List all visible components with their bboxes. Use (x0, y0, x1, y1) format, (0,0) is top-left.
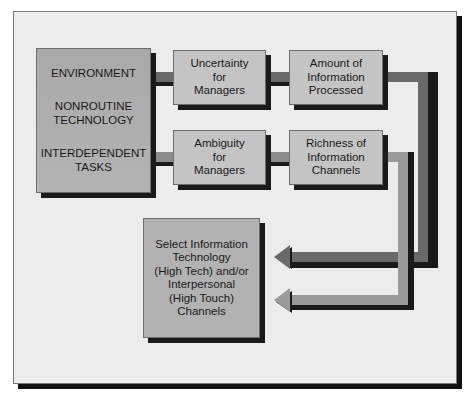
factor-label: TECHNOLOGY (53, 114, 134, 128)
box-label: Managers (194, 164, 245, 178)
box-label: (High Tech) and/or (154, 265, 248, 279)
box-label: Information (307, 71, 365, 85)
box-label: Uncertainty (190, 57, 248, 71)
factor-nonroutine-technology: NONROUTINE TECHNOLOGY (53, 100, 134, 127)
box-label: Richness of (306, 137, 366, 151)
factor-environment: ENVIRONMENT (51, 67, 136, 81)
box-label: for (213, 71, 226, 85)
select-channels-box: Select Information Technology (High Tech… (143, 218, 260, 338)
arrowhead-dark-icon (274, 245, 290, 269)
box-label: for (213, 151, 226, 165)
factor-interdependent-tasks: INTERDEPENDENT TASKS (41, 147, 146, 174)
box-label: Managers (194, 84, 245, 98)
arrowhead-light-icon (274, 288, 290, 312)
factor-label: INTERDEPENDENT (41, 147, 146, 161)
source-factors-box: ENVIRONMENT NONROUTINE TECHNOLOGY INTERD… (36, 48, 151, 193)
factor-label: ENVIRONMENT (51, 67, 136, 81)
box-label: Interpersonal (168, 278, 235, 292)
box-label: Information (307, 151, 365, 165)
factor-label: NONROUTINE (53, 100, 134, 114)
box-label: Ambiguity (194, 137, 245, 151)
box-label: Channels (177, 305, 226, 319)
box-label: Processed (309, 84, 363, 98)
box-label: Select Information (155, 238, 248, 252)
factor-label: TASKS (41, 161, 146, 175)
box-label: Channels (312, 164, 361, 178)
uncertainty-box: Uncertainty for Managers (173, 50, 266, 105)
ambiguity-box: Ambiguity for Managers (173, 130, 266, 185)
box-label: Technology (172, 251, 230, 265)
richness-of-channels-box: Richness of Information Channels (289, 130, 383, 185)
box-label: (High Touch) (169, 292, 234, 306)
box-label: Amount of (310, 57, 362, 71)
amount-of-information-box: Amount of Information Processed (289, 50, 383, 105)
